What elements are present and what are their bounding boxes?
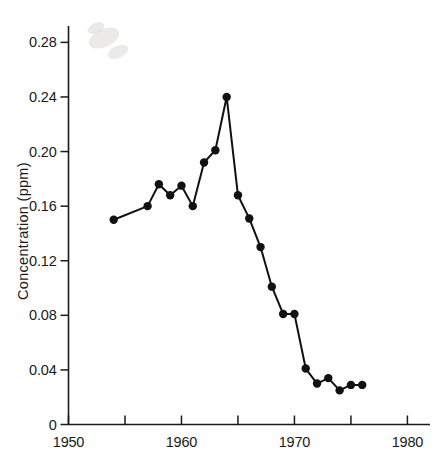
x-tick-label: 1980 [392, 434, 424, 450]
data-series-concentration [109, 93, 366, 395]
data-point [189, 202, 197, 210]
y-tick-label: 0.24 [29, 89, 57, 105]
y-tick-label: 0.20 [29, 144, 57, 160]
data-point [256, 243, 264, 251]
chart-figure: 00.040.080.120.160.200.240.28 1950196019… [0, 0, 434, 462]
data-point [166, 191, 174, 199]
x-tick-label: 1950 [53, 434, 85, 450]
data-point [211, 146, 219, 154]
data-point [177, 181, 185, 189]
y-tick-label: 0.28 [29, 34, 57, 50]
y-tick-label: 0 [49, 417, 57, 433]
scan-artifact [86, 20, 131, 62]
x-tick-label: 1960 [166, 434, 198, 450]
data-point [358, 381, 366, 389]
series-line [114, 97, 363, 390]
data-point [222, 93, 230, 101]
data-point [234, 191, 242, 199]
data-point [279, 310, 287, 318]
data-point [200, 158, 208, 166]
y-tick-label: 0.16 [29, 198, 57, 214]
x-axis-ticks [69, 416, 408, 425]
series-markers [109, 93, 366, 395]
data-point [109, 216, 117, 224]
data-point [245, 214, 253, 222]
data-point [324, 374, 332, 382]
data-point [290, 310, 298, 318]
line-chart: 00.040.080.120.160.200.240.28 1950196019… [0, 0, 434, 462]
data-point [335, 386, 343, 394]
axis-lines [69, 26, 431, 425]
y-tick-label: 0.08 [29, 307, 57, 323]
x-tick-label: 1970 [279, 434, 311, 450]
y-axis-tick-labels: 00.040.080.120.160.200.240.28 [29, 34, 57, 432]
data-point [347, 381, 355, 389]
data-point [143, 202, 151, 210]
data-point [313, 379, 321, 387]
y-tick-label: 0.12 [29, 253, 57, 269]
y-axis-title: Concentration (ppm) [15, 162, 31, 300]
data-point [302, 364, 310, 372]
data-point [268, 282, 276, 290]
y-tick-label: 0.04 [29, 362, 57, 378]
data-point [155, 180, 163, 188]
x-axis-tick-labels: 1950196019701980 [53, 434, 423, 450]
y-axis-ticks [61, 42, 69, 424]
